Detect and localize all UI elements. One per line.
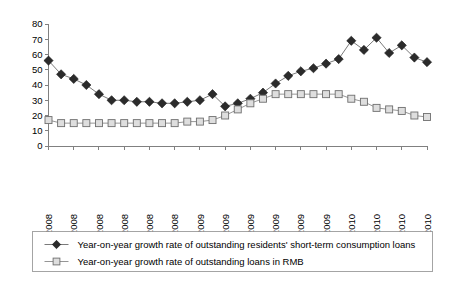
data-point-marker — [133, 120, 140, 127]
data-point-marker — [386, 106, 393, 113]
data-point-marker — [398, 107, 405, 114]
data-point-marker — [196, 118, 203, 125]
data-point-marker — [82, 80, 91, 89]
data-point-marker — [321, 59, 330, 68]
data-point-marker — [234, 106, 241, 113]
data-point-marker — [146, 120, 153, 127]
series-1 — [44, 33, 432, 111]
legend-marker-open-square-icon — [53, 258, 60, 265]
data-point-marker — [285, 91, 292, 98]
data-point-marker — [107, 96, 116, 105]
data-point-marker — [184, 118, 191, 125]
y-tick-label: 80 — [32, 18, 43, 29]
data-point-marker — [45, 117, 52, 124]
data-point-marker — [259, 95, 266, 102]
data-point-marker — [209, 117, 216, 124]
y-tick-label: 70 — [32, 34, 43, 45]
data-point-marker — [334, 54, 343, 63]
chart-container: 01020304050607080 Jan. 1, 2008Mar. 1, 20… — [0, 0, 462, 290]
y-tick-label: 30 — [32, 95, 43, 106]
data-point-marker — [247, 100, 254, 107]
data-point-marker — [69, 74, 78, 83]
series-line — [49, 38, 428, 107]
data-point-marker — [171, 120, 178, 127]
data-point-marker — [272, 91, 279, 98]
data-point-marker — [83, 120, 90, 127]
data-point-marker — [132, 97, 141, 106]
data-point-marker — [309, 64, 318, 73]
data-point-marker — [58, 120, 65, 127]
y-tick-label: 20 — [32, 110, 43, 121]
chart-legend: Year-on-year growth rate of outstanding … — [33, 232, 433, 272]
data-point-marker — [411, 112, 418, 119]
data-point-marker — [310, 91, 317, 98]
y-tick-label: 40 — [32, 79, 43, 90]
data-point-marker — [120, 96, 129, 105]
y-tick-label: 50 — [32, 64, 43, 75]
data-point-marker — [159, 120, 166, 127]
data-point-marker — [348, 95, 355, 102]
data-point-marker — [323, 91, 330, 98]
data-point-marker — [157, 99, 166, 108]
data-point-marker — [195, 96, 204, 105]
legend-item-label: Year-on-year growth rate of outstanding … — [78, 256, 304, 267]
y-axis-group: 01020304050607080 — [32, 18, 49, 151]
data-point-marker — [422, 58, 431, 67]
data-point-marker — [145, 97, 154, 106]
y-tick-label: 10 — [32, 125, 43, 136]
y-tick-label: 60 — [32, 49, 43, 60]
series-layer — [44, 33, 432, 127]
data-point-marker — [183, 97, 192, 106]
legend-item-1[interactable]: Year-on-year growth rate of outstanding … — [45, 239, 416, 250]
y-axis-ticks: 01020304050607080 — [32, 18, 49, 151]
data-point-marker — [347, 36, 356, 45]
data-point-marker — [170, 99, 179, 108]
data-point-marker — [108, 120, 115, 127]
legend-item-2[interactable]: Year-on-year growth rate of outstanding … — [45, 256, 304, 267]
data-point-marker — [284, 71, 293, 80]
data-point-marker — [271, 79, 280, 88]
y-tick-label: 0 — [37, 140, 42, 151]
data-point-marker — [297, 91, 304, 98]
legend-item-label: Year-on-year growth rate of outstanding … — [78, 239, 416, 250]
data-point-marker — [373, 104, 380, 111]
data-point-marker — [94, 90, 103, 99]
data-point-marker — [360, 98, 367, 105]
data-point-marker — [121, 120, 128, 127]
data-point-marker — [222, 112, 229, 119]
data-point-marker — [424, 114, 431, 121]
data-point-marker — [335, 91, 342, 98]
data-point-marker — [70, 120, 77, 127]
data-point-marker — [296, 67, 305, 76]
growth-rate-line-chart: 01020304050607080 Jan. 1, 2008Mar. 1, 20… — [0, 0, 462, 290]
data-point-marker — [95, 120, 102, 127]
